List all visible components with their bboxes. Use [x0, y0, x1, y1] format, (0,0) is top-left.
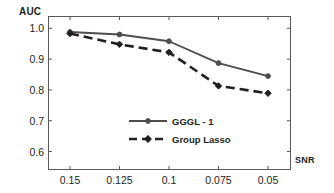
- legend-line-sample: [128, 114, 168, 128]
- legend-item-label: Group Lasso: [168, 134, 231, 145]
- y-axis-tick-label: 0.7: [4, 115, 48, 127]
- x-axis-title: SNR: [295, 155, 315, 165]
- legend-marker: [145, 135, 152, 142]
- y-axis-tick-label: 0.8: [4, 84, 48, 96]
- chart-legend: GGGL - 1Group Lasso: [128, 112, 248, 148]
- y-axis-tick-label: 1.0: [4, 22, 48, 34]
- legend-item-label: GGGL - 1: [168, 116, 214, 127]
- x-axis-tick-label: 0.05: [258, 174, 278, 186]
- legend-marker: [146, 119, 151, 124]
- y-axis-tick-label: 0.6: [4, 146, 48, 158]
- legend-line-sample: [128, 132, 168, 146]
- legend-item: GGGL - 1: [128, 112, 248, 130]
- x-axis-tick-label: 0.15: [60, 174, 80, 186]
- y-axis-tick-label: 0.9: [4, 53, 48, 65]
- x-axis-tick-label: 0.125: [106, 174, 132, 186]
- legend-item: Group Lasso: [128, 130, 248, 148]
- y-axis-tick-labels: 1.00.90.80.70.6: [0, 0, 48, 193]
- auc-vs-snr-line-chart: AUC SNR 1.00.90.80.70.6 GGGL - 1Group La…: [0, 0, 334, 193]
- x-axis-tick-label: 0.075: [205, 174, 231, 186]
- x-axis-tick-label: 0.1: [162, 174, 177, 186]
